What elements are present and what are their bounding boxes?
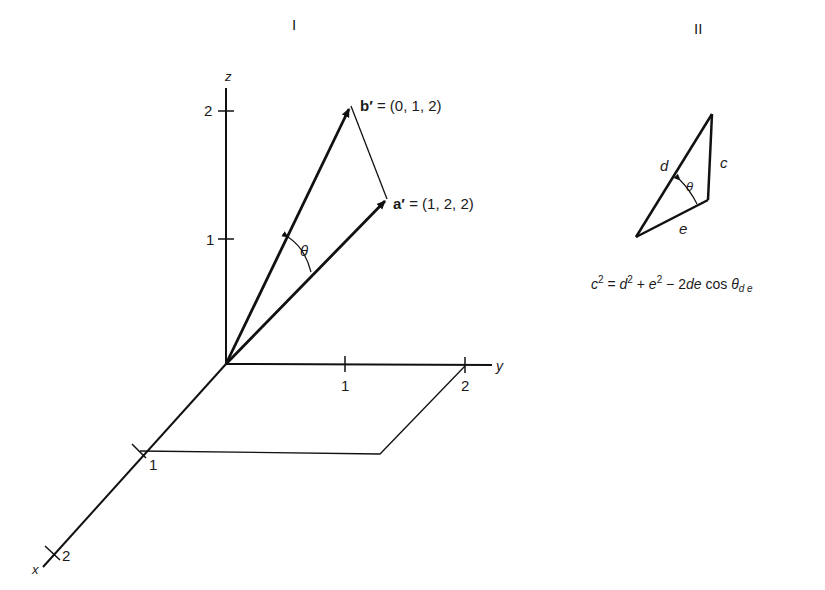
diagram-canvas [0, 0, 825, 590]
vector-a-name: a′ [393, 195, 405, 212]
law-of-cosines-formula: c2 = d2 + e2 − 2de cos θd e [591, 274, 753, 294]
vector-b-name: b′ [360, 97, 373, 114]
panel-title-i: I [292, 16, 296, 33]
formula-theta-subscript: d e [739, 283, 753, 294]
vector-a-coords: = (1, 2, 2) [409, 195, 474, 212]
y-tick-2: 2 [461, 378, 469, 393]
y-axis-label: y [496, 359, 503, 373]
triangle-ii [636, 114, 712, 237]
theta-label-i: θ [300, 243, 308, 258]
formula-theta: θ [731, 276, 739, 292]
vector-b-coords: = (0, 1, 2) [377, 97, 442, 114]
x-axis [43, 364, 226, 567]
formula-equals: = [604, 276, 620, 292]
z-axis-label: z [225, 70, 232, 83]
formula-plus: + [633, 276, 649, 292]
side-d-label: d [660, 158, 668, 173]
y-axis [226, 356, 492, 373]
vector-b-prime [226, 109, 349, 364]
formula-c: c [591, 276, 598, 292]
vector-a-prime [226, 201, 385, 364]
x-tick-1: 1 [149, 457, 157, 472]
formula-e: e [649, 276, 657, 292]
panel-title-ii: II [694, 20, 702, 37]
y-tick-1: 1 [341, 378, 349, 393]
xy-plane-projection [140, 366, 465, 454]
vector-a-label: a′ = (1, 2, 2) [393, 196, 474, 211]
formula-de: de [686, 276, 702, 292]
z-tick-2: 2 [204, 103, 212, 118]
z-axis [218, 88, 234, 364]
x-axis-label: x [32, 563, 39, 576]
formula-cos: cos [702, 276, 732, 292]
difference-segment [351, 106, 387, 199]
vector-b-label: b′ = (0, 1, 2) [360, 98, 442, 113]
theta-label-ii: θ [686, 180, 693, 193]
side-e-label: e [679, 221, 687, 236]
z-tick-1: 1 [206, 232, 214, 247]
x-tick-2: 2 [62, 548, 70, 563]
side-c-label: c [720, 155, 728, 170]
formula-minus: − 2 [662, 276, 686, 292]
